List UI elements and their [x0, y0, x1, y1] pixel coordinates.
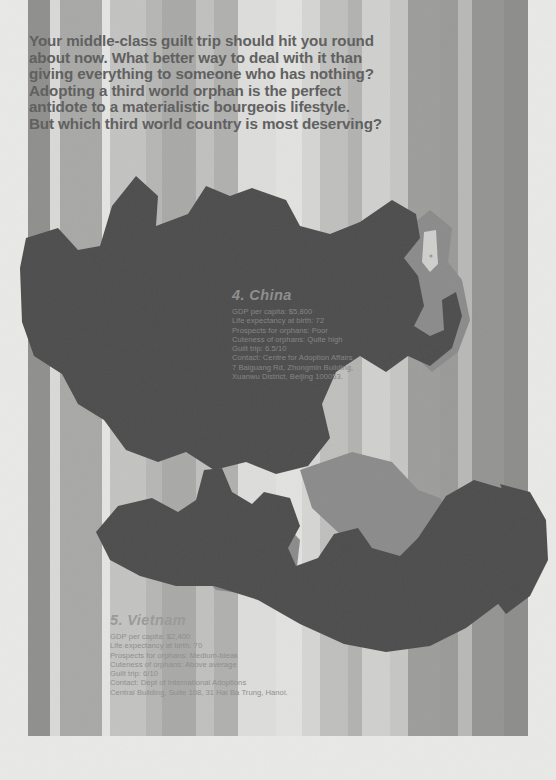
country-title-china: 4. China	[232, 288, 353, 303]
country-entry-vietnam: 5. Vietnam GDP per capita: $2,400 Life e…	[110, 613, 288, 697]
china-gdp: GDP per capita: $5,800	[232, 307, 353, 316]
headline-line-6: But which third world country is most de…	[29, 116, 459, 133]
china-guilt-trip: Guilt trip: 6.5/10	[232, 344, 353, 353]
china-life-expectancy: Life expectancy at birth: 72	[232, 316, 353, 325]
country-title-vietnam: 5. Vietnam	[110, 613, 288, 628]
china-contact: Contact: Centre for Adoption Affairs	[232, 353, 353, 362]
headline-line-1: Your middle-class guilt trip should hit …	[29, 33, 459, 50]
vietnam-guilt-trip: Guilt trip: 6/10	[110, 669, 288, 678]
country-entry-china: 4. China GDP per capita: $5,800 Life exp…	[232, 288, 353, 381]
page-headline: Your middle-class guilt trip should hit …	[29, 33, 459, 133]
vietnam-prospects: Prospects for orphans: Medium-bleak	[110, 651, 288, 660]
vietnam-address-1: Central Building, Suite 108, 31 Hai Ba T…	[110, 688, 288, 697]
headline-line-5: antidote to a materialistic bourgeois li…	[29, 99, 459, 116]
vietnam-life-expectancy: Life expectancy at birth: 70	[110, 641, 288, 650]
headline-line-4: Adopting a third world orphan is the per…	[29, 83, 459, 100]
headline-line-2: about now. What better way to deal with …	[29, 50, 459, 67]
poster-canvas: Your middle-class guilt trip should hit …	[0, 0, 556, 780]
china-address-1: 7 Baiguang Rd, Zhongmin Building,	[232, 363, 353, 372]
china-prospects: Prospects for orphans: Poor	[232, 326, 353, 335]
peninsula-dot	[429, 254, 432, 257]
vietnam-cuteness: Cuteness of orphans: Above average	[110, 660, 288, 669]
vietnam-contact: Contact: Dept of International Adoptions	[110, 678, 288, 687]
china-cuteness: Cuteness of orphans: Quite high	[232, 335, 353, 344]
china-address-2: Xuanwu District, Beijing 100053.	[232, 372, 353, 381]
vietnam-gdp: GDP per capita: $2,400	[110, 632, 288, 641]
headline-line-3: giving everything to someone who has not…	[29, 66, 459, 83]
